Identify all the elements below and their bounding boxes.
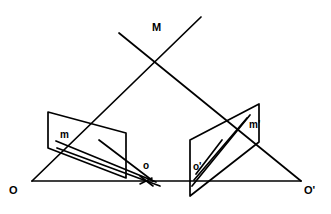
right-plane-line-o-m-b bbox=[194, 118, 247, 180]
geometry-figure: M m o O m' o' O' bbox=[0, 0, 331, 214]
label-point-m-prime: m' bbox=[249, 120, 260, 130]
triangle-side-O-M bbox=[32, 17, 201, 181]
left-plane-parallelogram bbox=[48, 112, 126, 178]
triangle-side-M-Oprime bbox=[119, 33, 301, 181]
figure-canvas bbox=[0, 0, 331, 214]
label-point-o-prime: o' bbox=[193, 162, 202, 172]
label-point-o: o bbox=[143, 161, 149, 171]
label-point-m: m bbox=[60, 130, 69, 140]
label-point-O: O bbox=[9, 185, 18, 196]
label-point-M: M bbox=[152, 22, 161, 33]
label-point-O-prime: O' bbox=[304, 185, 315, 196]
